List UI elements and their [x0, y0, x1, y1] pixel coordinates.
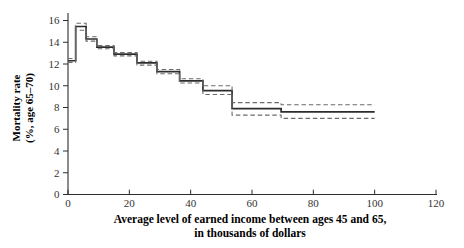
- chart-figure: 020406080100120 0246810121416 Average le…: [0, 0, 464, 248]
- y-tick-label: 6: [54, 123, 60, 135]
- x-axis-label-line2: in thousands of dollars: [194, 227, 306, 239]
- x-axis-ticks: 020406080100120: [65, 190, 445, 209]
- x-tick-label: 100: [366, 197, 383, 209]
- x-axis-label-line1: Average level of earned income between a…: [114, 213, 387, 226]
- y-tick-label: 4: [54, 145, 60, 157]
- y-tick-label: 16: [49, 14, 61, 26]
- y-tick-label: 8: [54, 101, 60, 113]
- mortality-estimate-line: [68, 26, 375, 111]
- y-tick-label: 14: [49, 36, 61, 48]
- y-tick-label: 10: [49, 80, 61, 92]
- y-axis-ticks: 0246810121416: [49, 14, 69, 200]
- upper-confidence-band-line: [68, 23, 375, 105]
- x-tick-label: 0: [65, 197, 71, 209]
- plot-axes: [68, 13, 437, 195]
- lower-confidence-band-line: [68, 30, 375, 118]
- y-tick-label: 2: [54, 167, 60, 179]
- x-tick-label: 20: [124, 197, 136, 209]
- x-tick-label: 80: [308, 197, 320, 209]
- x-tick-label: 40: [185, 197, 197, 209]
- y-axis-label-line2: (%, age 65–70): [23, 73, 36, 143]
- x-tick-label: 120: [428, 197, 445, 209]
- series-group: [68, 23, 375, 118]
- y-tick-label: 12: [49, 58, 60, 70]
- y-tick-label: 0: [54, 188, 60, 200]
- mortality-income-chart: 020406080100120 0246810121416 Average le…: [0, 0, 464, 248]
- y-axis-label-line1: Mortality rate: [10, 74, 22, 141]
- x-tick-label: 60: [247, 197, 259, 209]
